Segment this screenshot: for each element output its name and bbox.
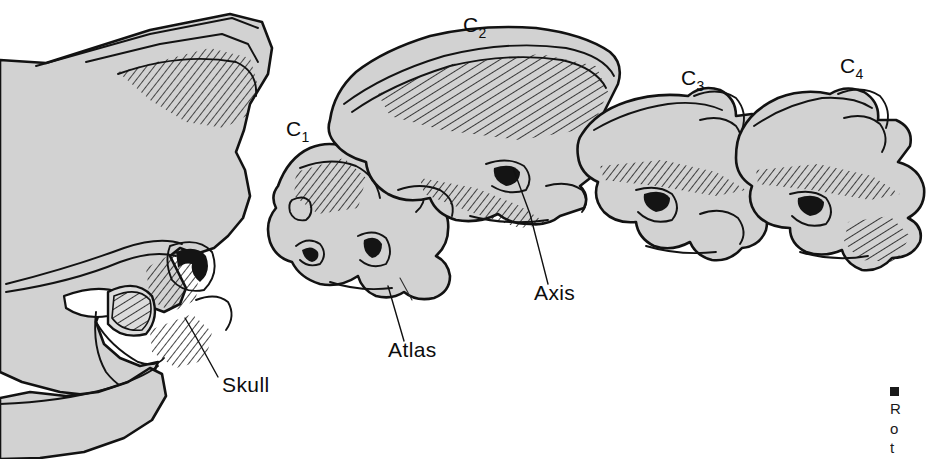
figure-caption: R o t xyxy=(890,387,936,457)
mastoid-hatch xyxy=(112,292,151,330)
figure-root: C1 C2 C3 C4 Skull Atlas Axis R o t xyxy=(0,0,936,459)
caption-line-1: R xyxy=(890,399,936,418)
label-atlas: Atlas xyxy=(388,338,437,361)
caption-line-3: t xyxy=(890,438,936,457)
c4-group xyxy=(736,88,924,270)
label-c3: C3 xyxy=(681,66,705,94)
label-axis: Axis xyxy=(534,281,575,304)
cervical-spine-illustration: C1 C2 C3 C4 Skull Atlas Axis xyxy=(0,0,936,459)
caption-line-2: o xyxy=(890,419,936,438)
label-skull: Skull xyxy=(222,373,270,396)
label-c1: C1 xyxy=(286,117,310,145)
caption-marker-square xyxy=(890,387,899,396)
label-c4: C4 xyxy=(840,54,864,82)
